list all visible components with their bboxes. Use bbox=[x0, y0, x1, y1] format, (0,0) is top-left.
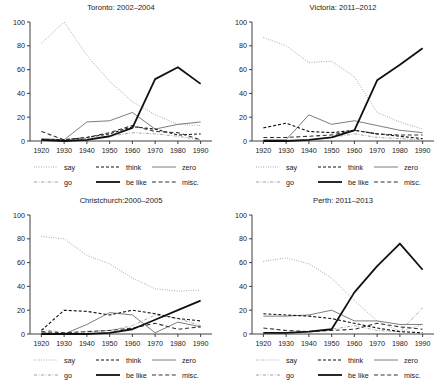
x-tick-label: 1990 bbox=[415, 339, 431, 348]
series-line-think bbox=[263, 123, 422, 138]
y-tick-label: 40 bbox=[239, 89, 247, 98]
legend-label-think: think bbox=[348, 163, 364, 172]
y-tick-label: 20 bbox=[17, 113, 25, 122]
series-line-zero bbox=[41, 112, 200, 139]
x-tick-label: 1970 bbox=[369, 339, 385, 348]
legend-label-go: go bbox=[64, 178, 72, 187]
x-tick-label: 1950 bbox=[324, 339, 340, 348]
y-tick-label: 20 bbox=[17, 306, 25, 315]
y-tick-label: 60 bbox=[239, 258, 247, 267]
legend-label-go: go bbox=[64, 371, 72, 380]
y-tick-label: 40 bbox=[239, 282, 247, 291]
panel-toronto: Toronto: 2002–20040204060801001920193019… bbox=[0, 0, 222, 193]
y-tick-label: 60 bbox=[17, 65, 25, 74]
legend-item-go: go bbox=[34, 371, 72, 380]
panel-perth: Perth: 2011–2013020406080100192019301940… bbox=[222, 193, 444, 386]
series-group bbox=[41, 236, 200, 334]
x-axis-ticks: 19201930194019501960197019801990 bbox=[33, 141, 208, 155]
axes bbox=[30, 22, 212, 141]
legend-label-be-like: be like bbox=[126, 371, 147, 380]
legend-item-say: say bbox=[256, 356, 298, 365]
x-axis-ticks: 19201930194019501960197019801990 bbox=[33, 334, 208, 348]
chart-legend: saythinkzerogobe likemisc. bbox=[256, 356, 421, 380]
x-tick-label: 1930 bbox=[278, 339, 294, 348]
chart-title: Christchurch:2000–2005 bbox=[80, 196, 163, 205]
y-tick-label: 60 bbox=[17, 258, 25, 267]
series-line-go bbox=[263, 134, 422, 141]
legend-label-zero: zero bbox=[404, 356, 418, 365]
x-tick-label: 1940 bbox=[79, 146, 95, 155]
y-tick-label: 100 bbox=[235, 211, 247, 220]
x-axis-ticks: 19201930194019501960197019801990 bbox=[255, 334, 430, 348]
series-group bbox=[263, 244, 422, 333]
legend-label-zero: zero bbox=[182, 163, 196, 172]
series-line-say bbox=[41, 236, 200, 291]
legend-item-think: think bbox=[318, 356, 364, 365]
x-tick-label: 1960 bbox=[346, 146, 362, 155]
legend-label-say: say bbox=[286, 163, 298, 172]
x-tick-label: 1950 bbox=[102, 146, 118, 155]
x-tick-label: 1950 bbox=[324, 146, 340, 155]
legend-item-say: say bbox=[34, 356, 76, 365]
legend-item-zero: zero bbox=[152, 356, 196, 365]
legend-label-say: say bbox=[64, 163, 76, 172]
chart-perth-2011-2013: Perth: 2011–2013020406080100192019301940… bbox=[222, 193, 444, 386]
legend-item-be-like: be like bbox=[96, 178, 147, 187]
legend-label-misc: misc. bbox=[404, 371, 421, 380]
y-tick-label: 100 bbox=[235, 18, 247, 27]
legend-label-be-like: be like bbox=[348, 371, 369, 380]
legend-label-misc: misc. bbox=[182, 371, 199, 380]
x-tick-label: 1990 bbox=[193, 339, 209, 348]
series-line-think bbox=[41, 310, 200, 330]
chart-christchurch-2000-2005: Christchurch:2000–2005020406080100192019… bbox=[0, 193, 222, 386]
legend-item-go: go bbox=[34, 178, 72, 187]
chart-legend: saythinkzerogobe likemisc. bbox=[34, 356, 199, 380]
y-tick-label: 0 bbox=[21, 137, 25, 146]
legend-item-be-like: be like bbox=[318, 178, 369, 187]
y-axis-ticks: 020406080100 bbox=[235, 18, 252, 146]
legend-label-think: think bbox=[126, 163, 142, 172]
x-tick-label: 1940 bbox=[79, 339, 95, 348]
x-tick-label: 1940 bbox=[301, 339, 317, 348]
y-tick-label: 80 bbox=[239, 234, 247, 243]
legend-item-think: think bbox=[318, 163, 364, 172]
series-group bbox=[263, 37, 422, 141]
legend-item-think: think bbox=[96, 163, 142, 172]
x-tick-label: 1970 bbox=[147, 339, 163, 348]
chart-toronto-2002-2004: Toronto: 2002–20040204060801001920193019… bbox=[0, 0, 222, 193]
legend-item-misc: misc. bbox=[374, 371, 421, 380]
legend-item-say: say bbox=[256, 163, 298, 172]
x-tick-label: 1920 bbox=[255, 339, 271, 348]
y-tick-label: 80 bbox=[239, 41, 247, 50]
x-tick-label: 1980 bbox=[170, 146, 186, 155]
legend-item-be-like: be like bbox=[318, 371, 369, 380]
y-tick-label: 100 bbox=[13, 211, 25, 220]
y-tick-label: 80 bbox=[17, 234, 25, 243]
y-tick-label: 0 bbox=[243, 137, 247, 146]
legend-item-go: go bbox=[256, 371, 294, 380]
chart-victoria-2011-2012: Victoria: 2011–2012020406080100192019301… bbox=[222, 0, 444, 193]
legend-item-be-like: be like bbox=[96, 371, 147, 380]
panel-victoria: Victoria: 2011–2012020406080100192019301… bbox=[222, 0, 444, 193]
y-tick-label: 0 bbox=[243, 330, 247, 339]
legend-label-misc: misc. bbox=[404, 178, 421, 187]
x-tick-label: 1990 bbox=[193, 146, 209, 155]
series-line-be-like bbox=[263, 48, 422, 141]
x-tick-label: 1980 bbox=[170, 339, 186, 348]
legend-label-say: say bbox=[64, 356, 76, 365]
y-tick-label: 0 bbox=[21, 330, 25, 339]
legend-item-misc: misc. bbox=[152, 371, 199, 380]
legend-label-go: go bbox=[286, 371, 294, 380]
y-tick-label: 80 bbox=[17, 41, 25, 50]
chart-title: Victoria: 2011–2012 bbox=[310, 3, 377, 12]
series-line-go bbox=[41, 133, 200, 141]
y-tick-label: 40 bbox=[17, 282, 25, 291]
x-tick-label: 1970 bbox=[147, 146, 163, 155]
figure-panel-grid: Toronto: 2002–20040204060801001920193019… bbox=[0, 0, 444, 386]
x-tick-label: 1920 bbox=[255, 146, 271, 155]
y-tick-label: 40 bbox=[17, 89, 25, 98]
x-tick-label: 1980 bbox=[392, 146, 408, 155]
legend-label-be-like: be like bbox=[348, 178, 369, 187]
y-tick-label: 20 bbox=[239, 306, 247, 315]
legend-label-think: think bbox=[348, 356, 364, 365]
